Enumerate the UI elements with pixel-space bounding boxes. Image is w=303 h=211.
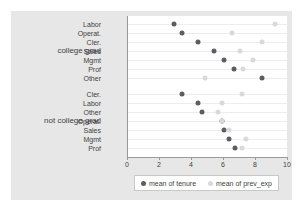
- data-point: [260, 76, 265, 81]
- gridline: [128, 130, 287, 131]
- data-point: [199, 110, 204, 115]
- category-label: Prof: [88, 145, 101, 152]
- data-point: [233, 146, 238, 151]
- gridline: [128, 69, 287, 70]
- category-label: Operat.: [78, 118, 101, 125]
- data-point: [239, 92, 244, 97]
- data-point: [196, 101, 201, 106]
- x-tick: [191, 157, 192, 160]
- gridline: [128, 33, 287, 34]
- category-label: Labor: [83, 100, 101, 107]
- data-point: [241, 67, 246, 72]
- category-label: Cler.: [87, 39, 101, 46]
- gridline: [128, 103, 287, 104]
- gridline: [128, 24, 287, 25]
- x-tick-label: 0: [125, 161, 129, 168]
- data-point: [222, 58, 227, 63]
- data-point: [196, 40, 201, 45]
- category-label: Prof: [88, 66, 101, 73]
- category-label: Labor: [83, 21, 101, 28]
- data-point: [172, 22, 177, 27]
- x-tick-label: 2: [157, 161, 161, 168]
- x-tick-label: 6: [221, 161, 225, 168]
- x-tick: [159, 157, 160, 160]
- data-point: [230, 31, 235, 36]
- gridline: [128, 112, 287, 113]
- data-point: [260, 40, 265, 45]
- legend-marker-prev-exp-icon: [208, 181, 213, 186]
- data-point: [220, 101, 225, 106]
- x-tick-label: 10: [283, 161, 291, 168]
- data-point: [238, 49, 243, 54]
- category-label: Sales: [83, 48, 101, 55]
- data-point: [212, 49, 217, 54]
- data-point: [180, 31, 185, 36]
- category-label: Cler.: [87, 91, 101, 98]
- legend-entry-tenure: mean of tenure: [141, 180, 196, 187]
- data-point: [250, 58, 255, 63]
- category-label: Other: [83, 75, 101, 82]
- legend-label-tenure: mean of tenure: [149, 180, 196, 187]
- legend-entry-prev-exp: mean of prev_exp: [208, 180, 272, 187]
- data-point: [180, 92, 185, 97]
- data-point: [202, 76, 207, 81]
- plot-area: [127, 16, 287, 157]
- x-tick: [255, 157, 256, 160]
- data-point: [244, 137, 249, 142]
- x-tick: [223, 157, 224, 160]
- data-point: [215, 110, 220, 115]
- x-tick: [127, 157, 128, 160]
- data-point: [226, 137, 231, 142]
- data-point: [220, 119, 225, 124]
- gridline: [128, 51, 287, 52]
- figure-panel: college grad not college grad Labor Oper…: [11, 11, 292, 200]
- data-point: [226, 128, 231, 133]
- category-label: Mgmt: [84, 136, 102, 143]
- x-tick: [287, 157, 288, 160]
- legend: mean of tenure mean of prev_exp: [134, 175, 279, 191]
- gridline: [128, 60, 287, 61]
- category-label: Mgmt: [84, 57, 102, 64]
- gridline: [128, 121, 287, 122]
- data-point: [231, 67, 236, 72]
- gridline: [128, 94, 287, 95]
- data-point: [239, 146, 244, 151]
- gridline: [128, 148, 287, 149]
- x-tick-label: 8: [253, 161, 257, 168]
- category-label: Sales: [83, 127, 101, 134]
- legend-marker-tenure-icon: [141, 181, 146, 186]
- data-point: [273, 22, 278, 27]
- x-axis: 0246810: [127, 157, 287, 158]
- x-tick-label: 4: [189, 161, 193, 168]
- legend-label-prev-exp: mean of prev_exp: [216, 180, 272, 187]
- gridline: [128, 139, 287, 140]
- category-label: Operat.: [78, 30, 101, 37]
- category-label: Other: [83, 109, 101, 116]
